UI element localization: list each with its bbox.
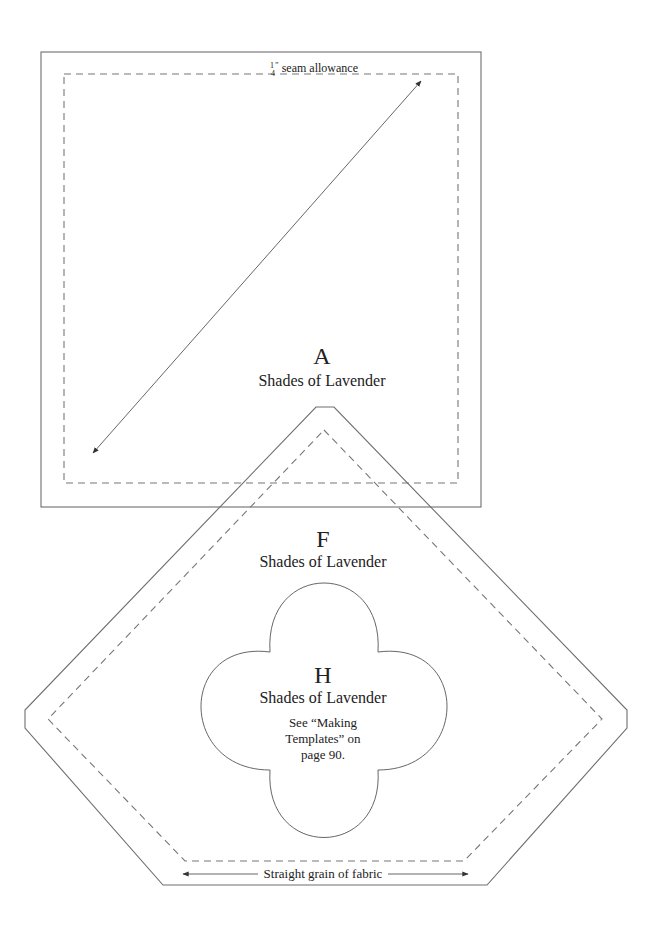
template-a-cut-line [41, 52, 481, 507]
template-a: 14"seam allowance A Shades of Lavender [41, 52, 481, 507]
template-h: H Shades of Lavender See “Making Templat… [201, 583, 447, 838]
template-f-fabric: Shades of Lavender [259, 553, 387, 570]
template-h-letter: H [314, 662, 331, 688]
template-f-cut-line [25, 407, 627, 885]
template-a-seam-line [64, 74, 458, 483]
template-h-fabric: Shades of Lavender [259, 689, 387, 706]
template-h-note-line-1: See “Making [289, 715, 358, 730]
grain-label: Straight grain of fabric [264, 866, 383, 881]
template-h-note-line-3: page 90. [301, 747, 345, 762]
template-f: F Shades of Lavender Straight grain of f… [25, 407, 627, 885]
template-a-letter: A [313, 343, 331, 369]
template-h-note-line-2: Templates” on [285, 731, 361, 746]
template-f-letter: F [316, 526, 329, 552]
template-h-outline [201, 583, 447, 838]
template-a-fabric: Shades of Lavender [258, 372, 386, 389]
template-sheet: 14"seam allowance A Shades of Lavender F… [0, 0, 660, 933]
grain-arrow-diagonal-icon [93, 81, 421, 453]
seam-allowance-label: 14"seam allowance [270, 60, 358, 78]
template-f-seam-line [48, 430, 602, 861]
